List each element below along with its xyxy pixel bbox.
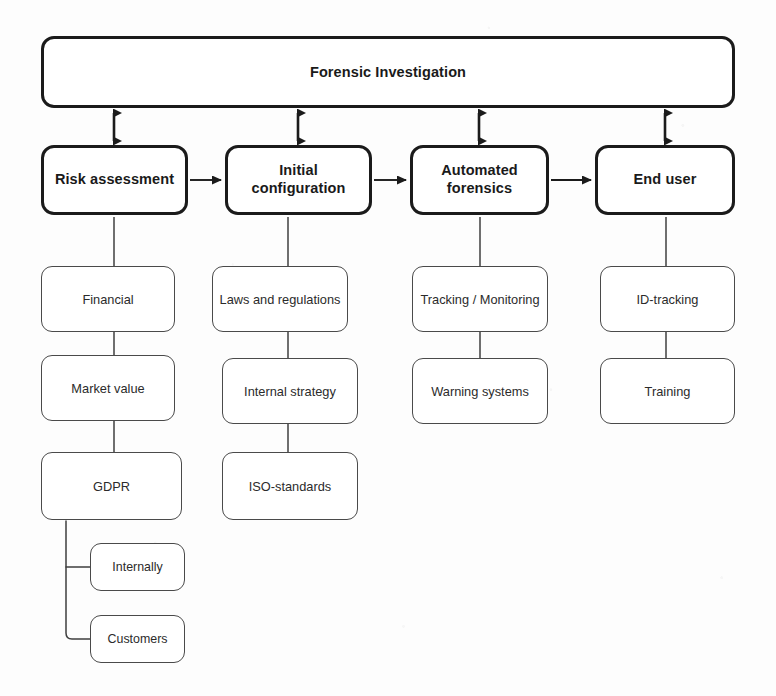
node-internally[interactable]: Internally	[90, 543, 185, 591]
node-forensic-investigation[interactable]: Forensic Investigation	[41, 36, 735, 108]
node-financial[interactable]: Financial	[41, 266, 175, 332]
node-label: Laws and regulations	[214, 292, 347, 307]
node-customers[interactable]: Customers	[90, 615, 185, 663]
connector-gdpr-customers	[66, 521, 90, 639]
node-market-value[interactable]: Market value	[41, 355, 175, 421]
root-to-stage-connectors	[114, 113, 665, 141]
node-label: Forensic Investigation	[304, 64, 472, 80]
node-gdpr[interactable]: GDPR	[41, 452, 182, 520]
node-risk-assessment[interactable]: Risk assessment	[41, 145, 188, 215]
node-label: Training	[639, 384, 697, 399]
node-id-tracking[interactable]: ID-tracking	[600, 266, 735, 332]
diagram-canvas: Forensic Investigation Risk assessment I…	[0, 0, 776, 696]
node-iso-standards[interactable]: ISO-standards	[222, 452, 358, 520]
node-label: Market value	[65, 381, 150, 396]
node-label: Automated forensics	[435, 162, 524, 197]
gdpr-subbranch-connectors	[66, 521, 90, 639]
branch-connectors	[114, 217, 666, 452]
node-warning-systems[interactable]: Warning systems	[412, 358, 548, 424]
node-label: Risk assessment	[49, 171, 180, 189]
node-initial-configuration[interactable]: Initial configuration	[225, 145, 372, 215]
node-automated-forensics[interactable]: Automated forensics	[410, 145, 549, 215]
node-internal-strategy[interactable]: Internal strategy	[222, 358, 358, 424]
node-label: Financial	[76, 292, 139, 307]
node-label: End user	[628, 171, 703, 189]
node-training[interactable]: Training	[600, 358, 735, 424]
node-label: Internal strategy	[238, 384, 342, 399]
node-label: Customers	[102, 632, 174, 646]
node-label: Initial configuration	[228, 162, 369, 197]
node-label: Warning systems	[425, 384, 535, 399]
node-label: ID-tracking	[631, 292, 705, 307]
node-end-user[interactable]: End user	[595, 145, 735, 215]
node-label: Tracking / Monitoring	[414, 292, 545, 307]
node-label: ISO-standards	[243, 479, 338, 494]
node-laws-and-regulations[interactable]: Laws and regulations	[212, 266, 348, 332]
node-tracking-monitoring[interactable]: Tracking / Monitoring	[412, 266, 548, 332]
node-label: GDPR	[87, 479, 136, 494]
node-label: Internally	[106, 560, 168, 574]
